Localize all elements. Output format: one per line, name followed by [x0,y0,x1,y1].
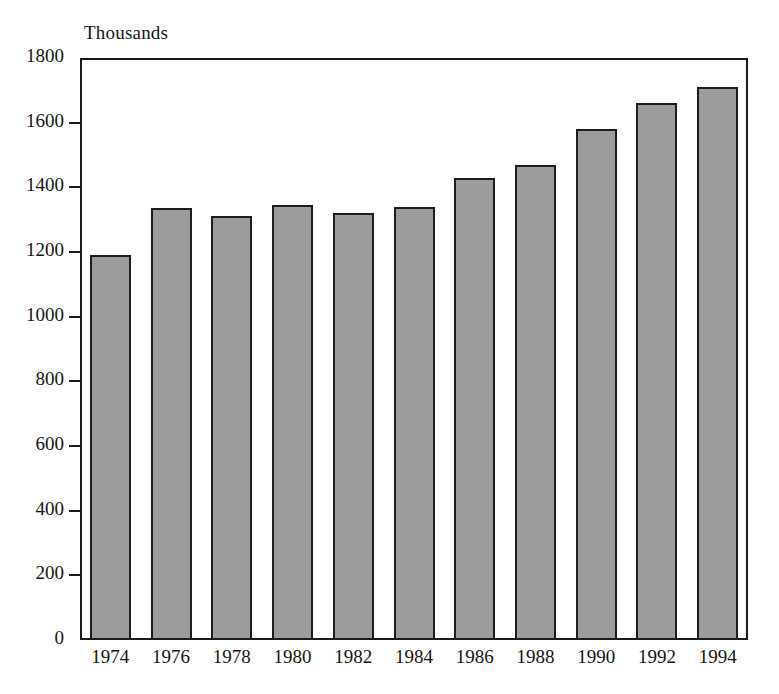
bar-1982 [333,213,374,640]
bar-1984 [394,207,435,640]
y-tick-label: 800 [36,368,65,390]
x-axis: 1974197619781980198219841986198819901992… [80,646,748,686]
x-tick-label-1974: 1974 [75,646,145,668]
x-tick-label-1984: 1984 [379,646,449,668]
y-tick-label: 1800 [26,45,64,67]
bar-1980 [272,205,313,640]
y-tick-label: 0 [55,627,65,649]
y-tick-mark [69,380,80,382]
y-tick-label: 1400 [26,174,64,196]
y-tick-label: 400 [36,498,65,520]
y-tick-mark [69,122,80,124]
bar-1986 [454,178,495,640]
y-tick-mark [69,574,80,576]
y-tick-mark [69,316,80,318]
y-tick-mark [69,251,80,253]
x-tick-label-1980: 1980 [258,646,328,668]
x-tick-label-1988: 1988 [500,646,570,668]
bar-1978 [211,216,252,640]
bar-1992 [636,103,677,640]
x-tick-label-1992: 1992 [622,646,692,668]
y-axis: 020040060080010001200140016001800 [0,0,80,694]
x-tick-label-1990: 1990 [561,646,631,668]
y-tick-label: 1200 [26,239,64,261]
x-tick-label-1994: 1994 [683,646,753,668]
x-tick-label-1982: 1982 [318,646,388,668]
y-tick-label: 600 [36,433,65,455]
bar-1990 [576,129,617,640]
x-tick-label-1986: 1986 [440,646,510,668]
y-tick-mark [69,510,80,512]
y-tick-label: 1600 [26,110,64,132]
y-tick-mark [69,445,80,447]
y-tick-label: 1000 [26,304,64,326]
x-tick-label-1978: 1978 [197,646,267,668]
bar-1988 [515,165,556,640]
y-tick-mark [69,186,80,188]
bar-1974 [90,255,131,640]
bar-1976 [151,208,192,640]
bar-chart: Thousands 020040060080010001200140016001… [0,0,779,694]
bar-1994 [697,87,738,640]
y-axis-unit-label: Thousands [84,22,168,44]
y-tick-label: 200 [36,562,65,584]
bars-layer [80,58,748,640]
x-tick-label-1976: 1976 [136,646,206,668]
